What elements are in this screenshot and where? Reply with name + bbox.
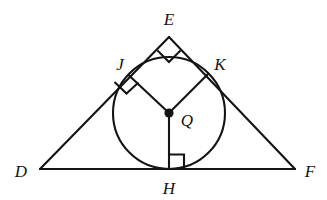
geometry-figure-canvas: E J K Q H D F (0, 0, 327, 200)
label-K: K (213, 55, 227, 74)
label-D: D (14, 162, 28, 181)
side-EF (169, 37, 295, 169)
label-E: E (163, 10, 175, 29)
label-F: F (304, 162, 316, 181)
label-H: H (162, 179, 177, 198)
triangle-incircle-diagram: E J K Q H D F (0, 0, 327, 200)
radius-QJ (129, 75, 170, 113)
side-DE (40, 37, 169, 169)
label-Q: Q (181, 111, 193, 130)
center-point-dot (164, 108, 173, 117)
radius-QK (169, 74, 208, 113)
radii-group (129, 74, 209, 169)
label-J: J (116, 55, 125, 74)
